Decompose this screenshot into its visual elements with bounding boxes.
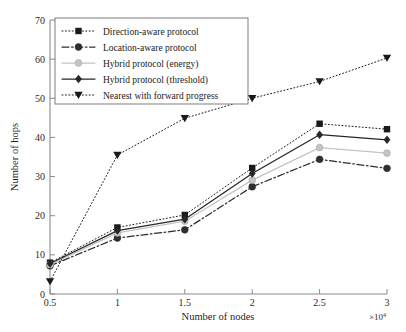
data-point — [316, 121, 322, 127]
y-tick-label: 50 — [35, 93, 45, 104]
y-tick-label: 10 — [35, 249, 45, 260]
data-point — [384, 150, 391, 157]
data-point — [384, 126, 390, 132]
legend: Direction-aware protocolLocation-aware p… — [55, 18, 248, 104]
legend-label: Direction-aware protocol — [103, 27, 199, 37]
x-tick-label: 1.5 — [179, 297, 192, 308]
legend-label: Location-aware protocol — [103, 43, 197, 53]
x-tick-label: 2 — [250, 297, 255, 308]
data-point — [249, 183, 256, 190]
data-point — [316, 144, 323, 151]
legend-marker-circle-icon — [75, 44, 82, 51]
data-point — [384, 165, 391, 172]
y-tick-label: 60 — [35, 54, 45, 65]
x-axis-title: Number of nodes — [182, 311, 255, 322]
y-tick-label: 20 — [35, 210, 45, 221]
legend-label: Nearest with forward progress — [103, 91, 219, 101]
y-tick-label: 70 — [35, 15, 45, 26]
legend-label: Hybrid protocol (energy) — [103, 59, 198, 70]
x-tick-label: 3 — [385, 297, 390, 308]
legend-marker-square-icon — [75, 28, 81, 34]
y-axis-title: Number of hops — [9, 123, 20, 191]
legend-marker-circle-icon — [75, 60, 82, 67]
x-tick-label: 0.5 — [44, 297, 57, 308]
x-tick-label: 2.5 — [313, 297, 326, 308]
data-point — [316, 156, 323, 163]
legend-label: Hybrid protocol (threshold) — [103, 75, 208, 86]
data-point — [181, 226, 188, 233]
y-tick-label: 40 — [35, 132, 45, 143]
chart-container: 010203040506070 0.511.522.53 Number of h… — [0, 0, 406, 332]
hops-vs-nodes-line-chart: 010203040506070 0.511.522.53 Number of h… — [0, 0, 406, 332]
data-point — [249, 177, 256, 184]
y-tick-label: 30 — [35, 171, 45, 182]
x-tick-label: 1 — [115, 297, 120, 308]
